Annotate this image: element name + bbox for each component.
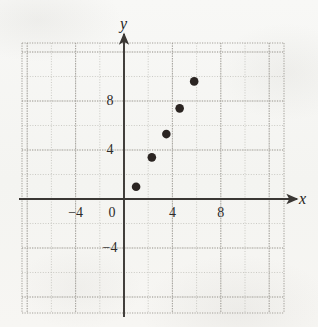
data-point — [148, 153, 157, 162]
scatter-plot-figure: x y −404884−4 — [0, 0, 318, 327]
data-point — [132, 182, 141, 191]
data-point — [190, 77, 199, 86]
grid-minor-lines — [22, 43, 284, 313]
y-tick-label-4: 4 — [107, 143, 114, 157]
plot-canvas — [0, 0, 318, 327]
y-tick-label-8: 8 — [107, 94, 114, 108]
y-tick-label--4: −4 — [103, 241, 118, 255]
data-points-group — [132, 77, 199, 191]
x-tick-label-4: 4 — [169, 206, 176, 220]
x-tick-label--4: −4 — [68, 206, 83, 220]
x-tick-label-8: 8 — [217, 206, 224, 220]
data-point — [162, 130, 171, 139]
y-axis-label: y — [120, 16, 127, 32]
x-axis-label: x — [299, 191, 306, 207]
x-tick-label-0: 0 — [109, 206, 116, 220]
data-point — [175, 104, 184, 113]
